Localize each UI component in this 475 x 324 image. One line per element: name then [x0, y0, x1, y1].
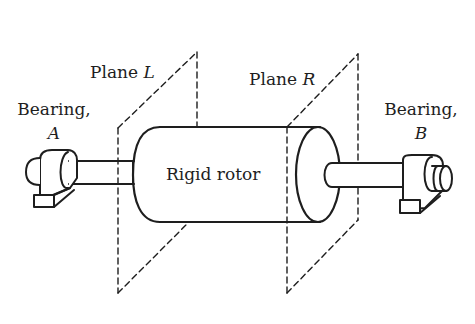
bearing-b-label: Bearing, B — [381, 101, 461, 142]
bearing-a-label: Bearing, A — [14, 101, 94, 142]
bearing-b-variable: B — [381, 125, 461, 142]
plane-l-variable: L — [143, 62, 154, 82]
diagram-drawing — [0, 0, 475, 324]
bearing-b-title: Bearing, — [381, 101, 461, 118]
shaft-right — [325, 163, 405, 187]
plane-r-label: Plane R — [249, 71, 315, 88]
rotor-label: Rigid rotor — [166, 166, 260, 183]
plane-l-label: Plane L — [90, 64, 155, 81]
plane-l-prefix: Plane — [90, 62, 143, 82]
plane-r-variable: R — [302, 69, 315, 89]
bearing-a-variable: A — [14, 125, 94, 142]
bearing-a — [26, 150, 77, 207]
bearing-a-title: Bearing, — [14, 101, 94, 118]
rigid-rotor-diagram: Plane L Plane R Bearing, A Bearing, B Ri… — [0, 0, 475, 324]
bearing-b — [400, 155, 452, 213]
plane-r-prefix: Plane — [249, 69, 302, 89]
